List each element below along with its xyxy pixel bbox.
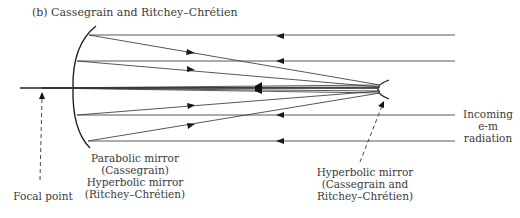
- secondary-pointer: [360, 106, 382, 162]
- focal-pointer: [40, 97, 42, 180]
- focal-point-label: Focal point: [8, 190, 78, 202]
- secondary-arrow-icon: [378, 101, 384, 108]
- converging-arrow-icons: [255, 82, 262, 94]
- primary-mirror: [73, 26, 96, 148]
- telescope-diagram: [0, 0, 520, 218]
- primary-mirror-label: Parabolic mirror (Cassegrain) Hyperbolic…: [80, 152, 190, 200]
- secondary-mirror-label: Hyperbolic mirror (Cassegrain and Ritche…: [310, 166, 420, 202]
- focal-arrow-icon: [39, 92, 45, 99]
- converging-rays: [42, 85, 380, 93]
- secondary-mirror: [378, 80, 389, 99]
- incoming-radiation-label: Incoming e-m radiation: [458, 108, 518, 144]
